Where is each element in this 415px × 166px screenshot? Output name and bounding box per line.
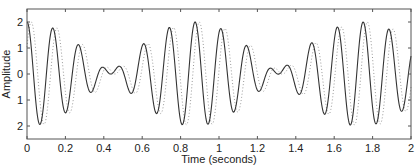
x-tick-label: 0 xyxy=(24,142,30,154)
x-tick-label: 0.2 xyxy=(58,142,73,154)
y-tick-label: 2 xyxy=(17,120,23,132)
y-tick-label: 1 xyxy=(17,42,23,54)
y-tick-label: 2 xyxy=(17,16,23,28)
y-axis-title: Amplitude xyxy=(0,50,12,99)
amplitude-time-chart: 00.20.40.60.811.21.41.61.82 21012 Time (… xyxy=(0,0,415,166)
x-tick-label: 1.6 xyxy=(327,142,342,154)
x-tick-label: 0.6 xyxy=(135,142,150,154)
x-tick-label: 1.4 xyxy=(288,142,303,154)
y-tick-label: 1 xyxy=(17,94,23,106)
x-tick-label: 0.4 xyxy=(96,142,111,154)
x-tick-label: 2 xyxy=(408,142,414,154)
x-axis-title: Time (seconds) xyxy=(181,153,256,165)
y-tick-label: 0 xyxy=(17,68,23,80)
x-tick-label: 1.8 xyxy=(365,142,380,154)
